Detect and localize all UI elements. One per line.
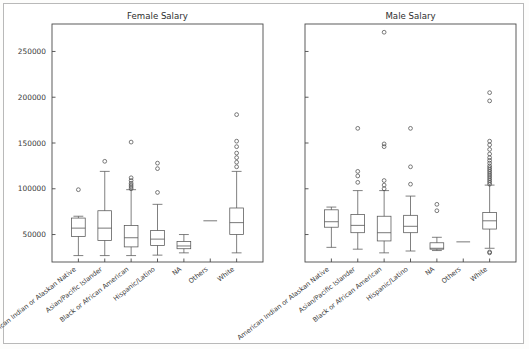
outlier-point bbox=[235, 160, 239, 164]
outlier-point bbox=[156, 167, 160, 171]
outlier-point bbox=[488, 156, 492, 160]
outlier-point bbox=[488, 99, 492, 103]
box-3[interactable] bbox=[404, 126, 418, 251]
outlier-point bbox=[356, 126, 360, 130]
x-tick-label: NA bbox=[171, 265, 184, 277]
outlier-point bbox=[435, 209, 439, 213]
y-tick-label: 250000 bbox=[18, 47, 47, 56]
box-0[interactable] bbox=[72, 188, 86, 256]
outlier-point bbox=[409, 126, 413, 130]
box-iqr bbox=[404, 215, 418, 232]
outlier-point bbox=[235, 165, 239, 169]
x-tick-label: NA bbox=[424, 265, 437, 277]
outlier-point bbox=[76, 188, 80, 192]
outlier-point bbox=[129, 140, 133, 144]
box-4[interactable] bbox=[177, 235, 191, 253]
box-3[interactable] bbox=[151, 161, 165, 255]
box-0[interactable] bbox=[325, 207, 339, 247]
x-tick-label: American Indian or Alaskan Native bbox=[236, 265, 331, 341]
outlier-point bbox=[488, 91, 492, 95]
box-iqr bbox=[377, 216, 391, 241]
box-iqr bbox=[325, 210, 339, 227]
outlier-point bbox=[488, 143, 492, 147]
box-6[interactable] bbox=[483, 91, 497, 255]
box-iqr bbox=[177, 241, 191, 248]
outlier-point bbox=[382, 30, 386, 34]
box-iqr bbox=[351, 214, 365, 232]
outlier-point bbox=[156, 191, 160, 195]
box-2[interactable] bbox=[124, 140, 138, 255]
outlier-point bbox=[356, 169, 360, 173]
y-tick-label: 200000 bbox=[18, 93, 47, 102]
outlier-point bbox=[129, 176, 133, 180]
box-iqr bbox=[230, 208, 244, 235]
outlier-point bbox=[235, 113, 239, 117]
outlier-point bbox=[382, 142, 386, 146]
outlier-point bbox=[235, 145, 239, 149]
figure-canvas: Female Salary500001000001500002000002500… bbox=[0, 0, 529, 349]
box-1[interactable] bbox=[98, 159, 112, 255]
panel-title-female: Female Salary bbox=[127, 11, 188, 21]
boxplot-svg: Female Salary500001000001500002000002500… bbox=[0, 0, 529, 349]
outlier-point bbox=[488, 148, 492, 152]
box-iqr bbox=[98, 211, 112, 241]
x-tick-label: Others bbox=[187, 265, 210, 285]
outlier-point bbox=[409, 182, 413, 186]
outlier-point bbox=[235, 156, 239, 160]
outlier-point bbox=[103, 159, 107, 163]
outlier-point bbox=[382, 187, 386, 191]
panel-title-male: Male Salary bbox=[385, 11, 435, 21]
outlier-point bbox=[356, 180, 360, 184]
y-tick-label: 150000 bbox=[18, 139, 47, 148]
box-iqr bbox=[124, 225, 138, 247]
x-tick-label: American Indian or Alaskan Native bbox=[0, 265, 78, 341]
outlier-point bbox=[235, 139, 239, 143]
panel-female: Female Salary500001000001500002000002500… bbox=[0, 11, 263, 342]
x-tick-label: White bbox=[469, 265, 489, 283]
box-2[interactable] bbox=[377, 30, 391, 253]
outlier-point bbox=[409, 165, 413, 169]
y-tick-label: 50000 bbox=[22, 230, 46, 239]
outlier-point bbox=[488, 152, 492, 156]
outlier-point bbox=[156, 161, 160, 165]
box-4[interactable] bbox=[430, 202, 444, 250]
x-tick-label: Others bbox=[440, 265, 463, 285]
outlier-point bbox=[382, 179, 386, 183]
outlier-point bbox=[488, 139, 492, 143]
box-6[interactable] bbox=[230, 113, 244, 253]
x-tick-label: White bbox=[216, 265, 236, 283]
y-tick-label: 100000 bbox=[18, 184, 47, 193]
outlier-point bbox=[435, 202, 439, 206]
panel-male: Male SalaryAmerican Indian or Alaskan Na… bbox=[236, 11, 516, 342]
outlier-point bbox=[235, 151, 239, 155]
outlier-point bbox=[356, 174, 360, 178]
outlier-point bbox=[382, 183, 386, 187]
box-1[interactable] bbox=[351, 126, 365, 249]
box-iqr bbox=[72, 218, 86, 236]
box-iqr bbox=[151, 230, 165, 245]
